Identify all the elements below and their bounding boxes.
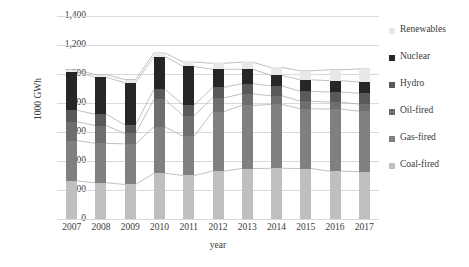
- bar-segment[interactable]: [66, 122, 77, 141]
- legend-item[interactable]: Renewables: [389, 24, 469, 51]
- bar-segment[interactable]: [359, 93, 370, 104]
- plot-area: [57, 16, 379, 219]
- bar-segment[interactable]: [66, 70, 77, 72]
- bar-segment[interactable]: [154, 53, 165, 57]
- legend-item[interactable]: Gas-fired: [389, 132, 469, 159]
- bar-segment[interactable]: [330, 171, 341, 219]
- x-axis-tick-label: 2014: [262, 222, 292, 232]
- bar-segment[interactable]: [242, 84, 253, 94]
- bar-segment[interactable]: [271, 168, 282, 219]
- bar-column[interactable]: [213, 16, 224, 219]
- chart-container: 1000 GWh 02004006008001,0001,2001,400 20…: [0, 0, 469, 267]
- bar-segment[interactable]: [213, 98, 224, 112]
- legend-swatch-icon: [389, 55, 395, 61]
- bar-segment[interactable]: [125, 125, 136, 134]
- bar-segment[interactable]: [154, 89, 165, 99]
- bar-column[interactable]: [125, 16, 136, 219]
- bar-segment[interactable]: [66, 72, 77, 110]
- bar-segment[interactable]: [300, 80, 311, 92]
- bar-segment[interactable]: [359, 172, 370, 219]
- bar-segment[interactable]: [183, 62, 194, 66]
- bar-segment[interactable]: [300, 169, 311, 219]
- bar-segment[interactable]: [66, 141, 77, 181]
- legend-swatch-icon: [389, 136, 395, 142]
- bar-column[interactable]: [183, 16, 194, 219]
- bar-segment[interactable]: [271, 104, 282, 168]
- legend-item[interactable]: Oil-fired: [389, 105, 469, 132]
- x-axis-tick-label: 2008: [86, 222, 116, 232]
- bar-segment[interactable]: [242, 69, 253, 84]
- bar-segment[interactable]: [242, 105, 253, 168]
- legend-swatch-icon: [389, 28, 395, 34]
- bar-segment[interactable]: [125, 144, 136, 185]
- bar-column[interactable]: [271, 16, 282, 219]
- bar-segment[interactable]: [271, 86, 282, 96]
- chart-legend: RenewablesNuclearHydroOil-firedGas-fired…: [389, 24, 469, 186]
- bar-segment[interactable]: [330, 92, 341, 102]
- bar-segment[interactable]: [66, 110, 77, 122]
- x-axis-tick-label: 2013: [232, 222, 262, 232]
- bar-segment[interactable]: [300, 109, 311, 169]
- bar-segment[interactable]: [95, 77, 106, 114]
- bar-column[interactable]: [95, 16, 106, 219]
- bar-segment[interactable]: [95, 75, 106, 78]
- bar-segment[interactable]: [125, 83, 136, 125]
- bar-segment[interactable]: [300, 91, 311, 101]
- legend-item[interactable]: Hydro: [389, 78, 469, 105]
- bar-column[interactable]: [300, 16, 311, 219]
- legend-item[interactable]: Coal-fired: [389, 159, 469, 186]
- bar-segment[interactable]: [242, 94, 253, 106]
- bar-column[interactable]: [359, 16, 370, 219]
- x-axis-tick-label: 2015: [291, 222, 321, 232]
- bar-segment[interactable]: [183, 105, 194, 116]
- bar-segment[interactable]: [300, 101, 311, 109]
- bar-segment[interactable]: [125, 133, 136, 143]
- bar-segment[interactable]: [154, 99, 165, 127]
- x-axis-tick-label: 2017: [349, 222, 379, 232]
- bar-segment[interactable]: [300, 71, 311, 80]
- bar-column[interactable]: [242, 16, 253, 219]
- bar-segment[interactable]: [183, 116, 194, 137]
- bar-segment[interactable]: [359, 82, 370, 93]
- x-axis-title: year: [57, 240, 379, 250]
- bar-segment[interactable]: [330, 109, 341, 171]
- bar-segment[interactable]: [242, 169, 253, 219]
- bar-segment[interactable]: [330, 81, 341, 92]
- legend-item[interactable]: Nuclear: [389, 51, 469, 78]
- bar-segment[interactable]: [330, 70, 341, 81]
- bar-segment[interactable]: [154, 127, 165, 173]
- legend-swatch-icon: [389, 82, 395, 88]
- bar-segment[interactable]: [95, 183, 106, 219]
- bar-segment[interactable]: [95, 114, 106, 125]
- legend-item-label: Nuclear: [400, 51, 430, 61]
- bar-segment[interactable]: [213, 63, 224, 69]
- x-axis-tick-label: 2007: [57, 222, 87, 232]
- bar-segment[interactable]: [330, 102, 341, 109]
- bar-segment[interactable]: [213, 112, 224, 171]
- legend-item-label: Coal-fired: [400, 159, 439, 169]
- bar-segment[interactable]: [271, 96, 282, 105]
- bar-segment[interactable]: [154, 57, 165, 90]
- bar-segment[interactable]: [359, 104, 370, 111]
- bar-segment[interactable]: [66, 181, 77, 219]
- bar-segment[interactable]: [95, 126, 106, 144]
- legend-swatch-icon: [389, 163, 395, 169]
- bar-segment[interactable]: [183, 176, 194, 220]
- bar-segment[interactable]: [359, 111, 370, 172]
- bar-segment[interactable]: [183, 66, 194, 104]
- bar-segment[interactable]: [242, 62, 253, 69]
- bar-segment[interactable]: [213, 171, 224, 219]
- bar-segment[interactable]: [271, 75, 282, 85]
- bar-segment[interactable]: [95, 143, 106, 182]
- bar-column[interactable]: [330, 16, 341, 219]
- bar-segment[interactable]: [125, 184, 136, 219]
- bar-segment[interactable]: [183, 136, 194, 175]
- bar-segment[interactable]: [213, 87, 224, 97]
- bar-segment[interactable]: [213, 69, 224, 87]
- bar-segment[interactable]: [359, 69, 370, 82]
- bar-segment[interactable]: [271, 67, 282, 75]
- bar-segment[interactable]: [125, 80, 136, 83]
- bar-column[interactable]: [66, 16, 77, 219]
- bar-segment[interactable]: [154, 173, 165, 219]
- bar-column[interactable]: [154, 16, 165, 219]
